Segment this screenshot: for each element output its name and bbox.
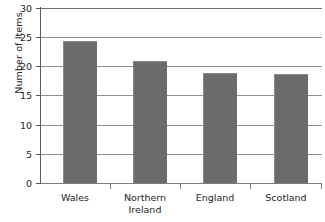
- y-tick-label-10: 10: [6, 121, 32, 131]
- x-axis-label-northern-ireland: Northern Ireland: [110, 192, 180, 215]
- bar-chart: Number of Items 30 25 20 15 10 5 0: [0, 0, 325, 222]
- y-tick-label-20: 20: [6, 62, 32, 72]
- gridline-25: [40, 37, 322, 38]
- x-tick-mark-2: [180, 184, 181, 189]
- x-axis-label-northern-ireland-line1: Northern: [110, 192, 180, 204]
- y-tick-mark-15: [36, 95, 41, 96]
- y-tick-mark-0: [36, 183, 41, 184]
- x-axis-label-scotland-line1: Scotland: [251, 192, 321, 204]
- y-tick-label-5: 5: [6, 150, 32, 160]
- y-tick-mark-30: [36, 8, 41, 9]
- x-axis-label-england-line1: England: [180, 192, 250, 204]
- x-axis-label-scotland: Scotland: [251, 192, 321, 204]
- x-tick-mark-4: [321, 184, 322, 189]
- y-tick-mark-10: [36, 125, 41, 126]
- y-tick-label-30: 30: [6, 4, 32, 14]
- x-axis-label-wales-line1: Wales: [40, 192, 110, 204]
- bar-england[interactable]: [203, 73, 237, 183]
- x-tick-mark-1: [110, 184, 111, 189]
- gridline-30: [40, 8, 322, 9]
- y-tick-label-0: 0: [6, 179, 32, 189]
- x-axis-label-england: England: [180, 192, 250, 204]
- x-axis-line: [40, 183, 322, 184]
- y-tick-mark-25: [36, 37, 41, 38]
- bar-scotland[interactable]: [274, 74, 308, 183]
- x-axis-label-northern-ireland-line2: Ireland: [110, 204, 180, 216]
- x-tick-mark-3: [250, 184, 251, 189]
- plot-area: 30 25 20 15 10 5 0: [40, 8, 322, 183]
- bar-wales[interactable]: [63, 41, 97, 183]
- y-tick-label-15: 15: [6, 91, 32, 101]
- y-tick-mark-5: [36, 154, 41, 155]
- x-axis-label-wales: Wales: [40, 192, 110, 204]
- y-tick-label-25: 25: [6, 33, 32, 43]
- bar-northern-ireland[interactable]: [133, 61, 167, 183]
- y-tick-mark-20: [36, 66, 41, 67]
